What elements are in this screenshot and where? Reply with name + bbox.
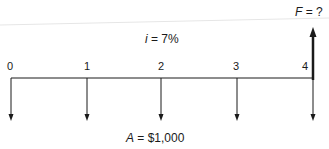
arrowhead-down-icon <box>311 114 316 121</box>
future-value-arrow <box>310 27 317 80</box>
arrowhead-down-icon <box>85 114 90 121</box>
period-label-0: 0 <box>7 61 13 72</box>
annuity-arrows <box>9 78 316 121</box>
future-value-label: F = ? <box>295 6 323 18</box>
arrowhead-down-icon <box>159 114 164 121</box>
annuity-value: = $1,000 <box>134 131 184 145</box>
cash-flow-diagram <box>0 0 329 149</box>
arrowhead-up-icon <box>310 27 317 37</box>
period-label-4: 4 <box>302 61 308 72</box>
annuity-variable: A <box>126 131 134 145</box>
future-value-text: = ? <box>302 5 322 19</box>
arrowhead-down-icon <box>235 114 240 121</box>
scan-artifact-line <box>0 18 329 25</box>
annuity-label: A = $1,000 <box>126 132 184 144</box>
arrowhead-down-icon <box>9 114 14 121</box>
interest-rate-label: i = 7% <box>145 33 179 45</box>
period-label-1: 1 <box>84 61 90 72</box>
interest-value: = 7% <box>148 32 179 46</box>
period-label-3: 3 <box>233 61 239 72</box>
period-label-2: 2 <box>158 61 164 72</box>
